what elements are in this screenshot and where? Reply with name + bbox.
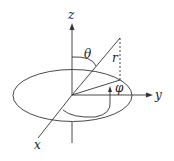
z-label: z — [67, 8, 75, 22]
r-label: r — [112, 51, 119, 65]
theta-label: θ — [84, 47, 92, 61]
phi-arrowhead — [108, 86, 112, 92]
z-arrowhead — [70, 23, 75, 30]
projection-line — [72, 80, 120, 95]
x-label: x — [34, 138, 41, 152]
y-arrowhead — [146, 93, 153, 98]
spherical-coordinates-diagram: z y x r θ φ — [0, 0, 174, 161]
r-vector — [72, 38, 120, 95]
y-label: y — [154, 88, 162, 102]
phi-arc — [63, 92, 110, 117]
phi-label: φ — [115, 81, 124, 95]
xy-plane-ellipse — [13, 70, 132, 122]
x-axis — [38, 95, 72, 138]
